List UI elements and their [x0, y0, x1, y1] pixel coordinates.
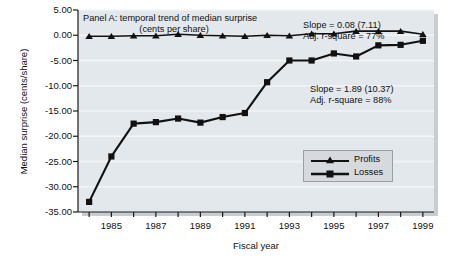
y-tick-label: 0.00 — [24, 29, 72, 40]
y-tick-label: -10.00 — [24, 80, 72, 91]
legend-label-profits: Profits — [354, 154, 380, 164]
annotation-losses-fit: Slope = 1.89 (10.37) Adj. r-square = 88% — [310, 84, 394, 106]
y-tick-label: -20.00 — [24, 130, 72, 141]
x-tick-label: 1991 — [225, 220, 265, 231]
chart-subtitle: (cents per share) — [83, 24, 257, 35]
annotation-profits-fit: Slope = 0.08 (7.11) Adj. r-square = 77% — [303, 20, 384, 42]
chart-title: Panel A: temporal trend of median surpri… — [83, 13, 257, 35]
x-axis-label: Fiscal year — [78, 240, 434, 251]
x-tick-label: 1999 — [403, 220, 443, 231]
chart-figure: Median surprise (cents/share) Fiscal yea… — [0, 0, 463, 261]
annotation-profits-rsquare: Adj. r-square = 77% — [303, 31, 384, 42]
x-axis-ticks — [89, 212, 423, 217]
annotation-losses-slope: Slope = 1.89 (10.37) — [310, 84, 394, 95]
annotation-profits-slope: Slope = 0.08 (7.11) — [303, 20, 384, 31]
x-tick-label: 1995 — [314, 220, 354, 231]
legend-marker-triangle-icon — [310, 154, 350, 168]
y-tick-label: -25.00 — [24, 156, 72, 167]
x-tick-label: 1989 — [180, 220, 220, 231]
y-axis-ticks — [73, 10, 78, 212]
x-tick-label: 1993 — [269, 220, 309, 231]
y-tick-label: -15.00 — [24, 105, 72, 116]
y-tick-label: -5.00 — [24, 55, 72, 66]
y-tick-label: -30.00 — [24, 181, 72, 192]
legend-marker-square-icon — [310, 167, 350, 181]
x-tick-label: 1997 — [358, 220, 398, 231]
annotation-losses-rsquare: Adj. r-square = 88% — [310, 95, 394, 106]
chart-legend: Profits Losses — [303, 150, 393, 182]
chart-title-line1: Panel A: temporal trend of median surpri… — [83, 13, 257, 23]
y-tick-label: 5.00 — [24, 4, 72, 15]
x-tick-label: 1987 — [136, 220, 176, 231]
legend-label-losses: Losses — [354, 167, 383, 177]
x-tick-label: 1985 — [91, 220, 131, 231]
y-tick-label: -35.00 — [24, 206, 72, 217]
